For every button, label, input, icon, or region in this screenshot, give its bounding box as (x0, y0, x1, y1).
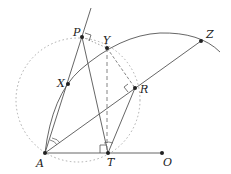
point-t (106, 151, 110, 155)
right-angle-r (124, 84, 128, 92)
label-y: Y (103, 34, 112, 47)
dashed-yr (107, 48, 135, 88)
label-p: P (72, 26, 81, 39)
point-o (160, 151, 164, 155)
dotted-circumcircle (16, 38, 140, 162)
point-r (133, 86, 137, 90)
point-a (43, 151, 47, 155)
right-angle-p (85, 33, 91, 41)
angle-mark-a (50, 140, 57, 145)
label-o: O (163, 156, 172, 169)
line-ap (45, 8, 91, 153)
point-p (80, 35, 84, 39)
angle-mark-a2 (52, 138, 60, 143)
label-z: Z (205, 28, 214, 41)
line-az (45, 41, 201, 153)
right-angle-t (100, 145, 107, 153)
line-pt (82, 37, 108, 153)
label-t: T (107, 156, 116, 169)
label-x: X (56, 77, 66, 90)
point-z (199, 39, 203, 43)
point-x (66, 82, 70, 86)
label-r: R (139, 83, 148, 96)
geometry-diagram: A T O P Y Z X R (0, 0, 231, 174)
label-a: A (35, 157, 44, 170)
